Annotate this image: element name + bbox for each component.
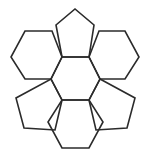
figure-root: Polygon tiling figure Line drawing of a … [0, 0, 149, 157]
polygon-tiling-diagram: Polygon tiling figure Line drawing of a … [0, 0, 149, 157]
figure-background [0, 0, 149, 157]
